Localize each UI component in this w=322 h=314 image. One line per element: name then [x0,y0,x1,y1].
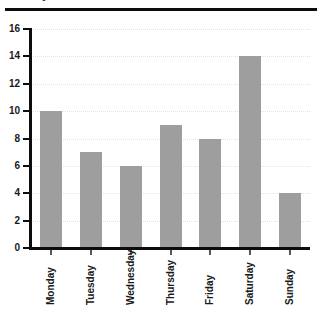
y-axis-tick [23,220,30,222]
y-axis-tick-label: 4 [2,188,20,198]
plot-area [31,29,310,248]
x-axis-label: Sunday [285,269,295,305]
y-axis-tick-label: 2 [2,216,20,226]
x-axis-tick [249,250,251,255]
x-axis-tick [90,250,92,255]
x-axis-label: Wednesday [126,250,136,305]
y-axis-tick [23,28,30,30]
gridline [31,29,310,30]
y-axis-tick [23,138,30,140]
y-axis-tick-label: 10 [2,106,20,116]
bar [160,125,182,248]
bar [199,139,221,249]
y-axis-tick-label: 6 [2,161,20,171]
x-axis-tick [289,250,291,255]
gridline [31,56,310,57]
x-axis-tick [209,250,211,255]
y-axis-tick-label: 14 [2,51,20,61]
x-axis-label: Monday [46,267,56,305]
chart-title-text: Daily Totals [22,0,83,1]
y-axis-tick [23,55,30,57]
y-axis-tick [23,247,30,249]
y-axis-tick-label: 16 [2,24,20,34]
y-axis-tick [23,165,30,167]
header-divider [5,8,317,11]
bar [239,56,261,248]
y-axis-tick [23,192,30,194]
y-axis-tick [23,110,30,112]
bar [120,166,142,248]
y-axis-tick-label: 0 [2,243,20,253]
gridline [31,84,310,85]
x-axis-label: Saturday [245,262,255,305]
x-axis-tick [50,250,52,255]
x-axis-label: Tuesday [86,265,96,305]
bar [279,193,301,248]
x-axis-label: Thursday [166,260,176,305]
bar-chart-screenshot: Daily Totals 0246810121416 MondayTuesday… [0,0,322,314]
chart-title-clipped: Daily Totals [0,0,322,2]
y-axis-tick [23,83,30,85]
bar [40,111,62,248]
gridline [31,111,310,112]
x-axis-label: Friday [205,275,215,305]
y-axis-tick-label: 12 [2,79,20,89]
y-axis-tick-label: 8 [2,134,20,144]
bar [80,152,102,248]
x-axis-tick [170,250,172,255]
